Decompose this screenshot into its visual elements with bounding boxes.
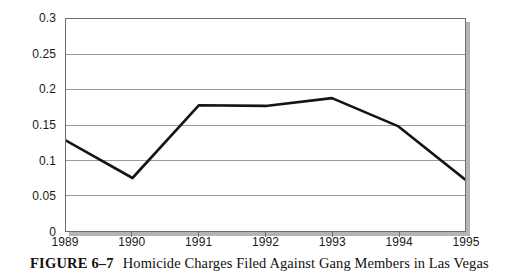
- y-axis-tick-label: 0.2: [10, 83, 56, 95]
- x-axis-tick-label: 1992: [236, 236, 296, 248]
- y-axis-tick-label: 0.3: [10, 12, 56, 24]
- y-axis-tick-label: 0.1: [10, 155, 56, 167]
- y-axis-tick-label: 0.15: [10, 119, 56, 131]
- figure-caption-text: Homicide Charges Filed Against Gang Memb…: [123, 255, 489, 271]
- y-axis-tick-label: 0.25: [10, 48, 56, 60]
- x-axis-tick-label: 1995: [436, 236, 496, 248]
- x-axis-tick-label: 1991: [169, 236, 229, 248]
- x-axis-tick-label: 1994: [369, 236, 429, 248]
- figure-caption: FIGURE 6–7Homicide Charges Filed Against…: [30, 255, 489, 272]
- chart-svg: [66, 19, 465, 231]
- data-line: [66, 98, 465, 179]
- figure-container: 0.30.250.20.150.10.050 19891990199119921…: [0, 0, 507, 280]
- x-axis-tick-label: 1993: [302, 236, 362, 248]
- figure-number: FIGURE 6–7: [30, 255, 114, 271]
- y-axis-tick-label: 0.05: [10, 190, 56, 202]
- data-series-group: [66, 98, 465, 179]
- x-axis-tick-label: 1989: [35, 236, 95, 248]
- x-axis-tick-label: 1990: [102, 236, 162, 248]
- plot-area: [65, 18, 466, 232]
